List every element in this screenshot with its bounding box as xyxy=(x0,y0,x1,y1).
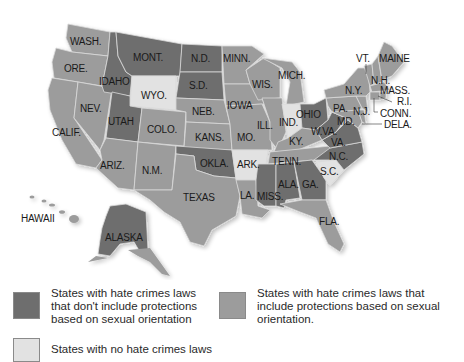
label-utah: UTAH xyxy=(108,116,134,127)
label-nh: N.H. xyxy=(371,75,390,86)
label-wva: W.VA. xyxy=(311,126,337,137)
label-ga: GA. xyxy=(302,179,319,190)
label-miss: MISS. xyxy=(257,191,283,202)
label-mich: MICH. xyxy=(278,70,305,81)
legend-label-no-law: States with no hate crimes laws xyxy=(51,343,251,356)
label-wis: WIS. xyxy=(252,79,273,90)
hawaii-big-island xyxy=(69,215,79,223)
label-fla: FLA. xyxy=(319,216,339,227)
label-iowa: IOWA xyxy=(227,100,253,111)
label-colo: COLO. xyxy=(147,124,177,135)
legend-swatch-no-law xyxy=(13,338,40,362)
label-ala: ALA. xyxy=(278,179,299,190)
label-maine: MAINE xyxy=(379,53,410,64)
label-okla: OKLA. xyxy=(200,158,228,169)
label-minn: MINN. xyxy=(223,53,250,64)
label-sd: S.D. xyxy=(189,80,208,91)
label-ore: ORE. xyxy=(64,63,88,74)
label-dela: DELA. xyxy=(384,119,412,130)
label-ill: ILL. xyxy=(257,120,273,131)
label-conn: CONN. xyxy=(380,108,411,119)
label-ri: R.I. xyxy=(397,96,412,107)
label-va: VA. xyxy=(331,137,346,148)
label-idaho: IDAHO xyxy=(99,76,130,87)
legend-label-with-orientation: States with hate crimes laws that includ… xyxy=(257,287,462,326)
label-ark: ARK. xyxy=(237,159,260,170)
label-nm: N.M. xyxy=(142,165,162,176)
label-nc: N.C. xyxy=(329,151,348,162)
label-nd: N.D. xyxy=(191,53,210,64)
label-la: LA. xyxy=(240,190,254,201)
legend-swatch-with-orientation xyxy=(219,292,246,319)
label-tenn: TENN. xyxy=(272,156,301,167)
label-kans: KANS. xyxy=(195,132,224,143)
us-hate-crimes-map: WASH. ORE. CALIF. NEV. IDAHO MONT. WYO. … xyxy=(0,0,464,280)
label-mass: MASS. xyxy=(380,85,410,96)
label-alaska: ALASKA xyxy=(105,232,143,243)
label-pa: PA. xyxy=(333,103,348,114)
label-wash: WASH. xyxy=(70,36,101,47)
legend-label-no-orientation: States with hate crimes laws that don't … xyxy=(51,287,221,326)
label-neb: NEB. xyxy=(192,106,215,117)
label-ny: N.Y. xyxy=(345,85,362,96)
label-mo: MO. xyxy=(237,132,255,143)
label-calif: CALIF. xyxy=(52,127,81,138)
label-nj: N.J. xyxy=(353,106,370,117)
legend-swatch-no-orientation xyxy=(13,292,40,319)
label-sc: S.C. xyxy=(320,166,339,177)
label-ariz: ARIZ. xyxy=(100,160,125,171)
label-wyo: WYO. xyxy=(141,90,167,101)
label-nev: NEV. xyxy=(80,103,102,114)
label-md: MD. xyxy=(337,116,355,127)
label-ky: KY. xyxy=(289,136,303,147)
label-vt: VT. xyxy=(356,53,370,64)
state-alaska xyxy=(98,204,148,256)
label-mont: MONT. xyxy=(133,52,163,63)
label-texas: TEXAS xyxy=(183,192,215,203)
label-ohio: OHIO xyxy=(296,109,321,120)
label-hawaii: HAWAII xyxy=(21,213,55,224)
